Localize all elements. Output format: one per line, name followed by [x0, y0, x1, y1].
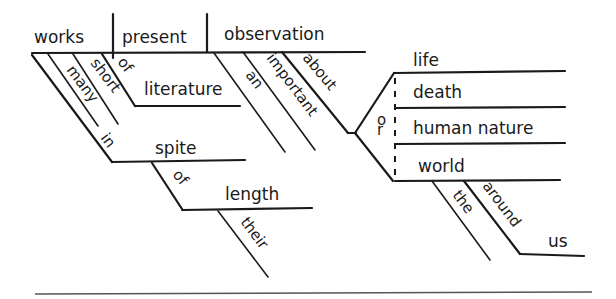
word-human-nature: human nature	[413, 118, 533, 138]
word-present: present	[122, 27, 187, 47]
line-us	[520, 254, 584, 256]
word-us: us	[548, 231, 568, 251]
fork-upper	[355, 73, 394, 133]
word-world: world	[418, 156, 465, 176]
word-the: the	[449, 187, 478, 217]
line-length	[182, 208, 312, 210]
sentence-diagram: works present observation in spite many …	[0, 0, 616, 299]
fork-lower	[355, 133, 393, 181]
line-life	[394, 71, 565, 73]
word-literature: literature	[144, 79, 223, 99]
line-human-nature	[395, 143, 565, 144]
word-works: works	[34, 27, 84, 47]
line-death	[395, 107, 565, 108]
word-length: length	[225, 184, 279, 204]
word-or-r: r	[377, 121, 384, 139]
word-spite: spite	[155, 138, 197, 158]
word-their: their	[237, 214, 273, 253]
word-life: life	[413, 50, 439, 70]
word-of-1: of	[114, 54, 138, 77]
word-in: in	[97, 130, 120, 152]
line-world	[395, 180, 560, 181]
word-death: death	[413, 82, 462, 102]
word-around: around	[479, 178, 525, 231]
word-of-2: of	[169, 166, 193, 189]
line-spite	[112, 160, 245, 162]
bottom-rule	[35, 292, 592, 294]
word-observation: observation	[224, 24, 325, 44]
